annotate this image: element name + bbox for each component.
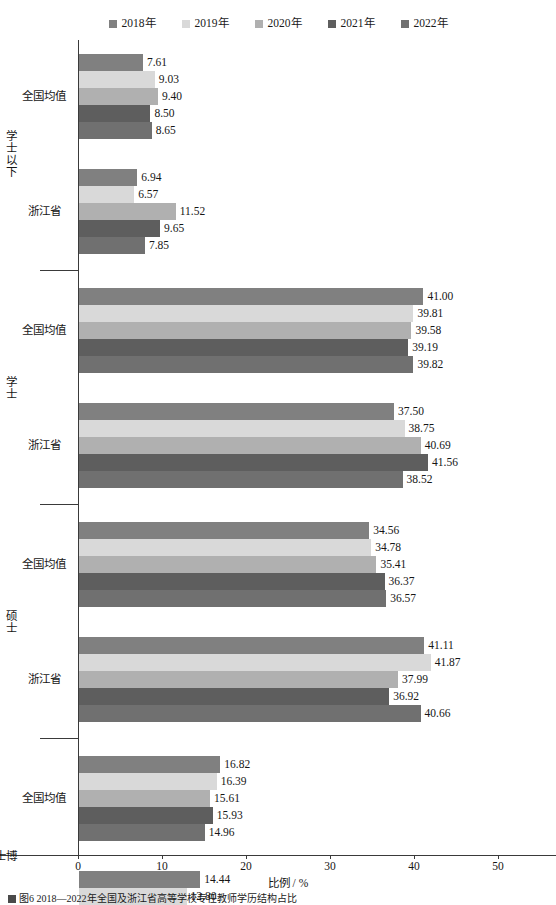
bar-fill <box>79 539 371 556</box>
bar: 16.82 <box>79 756 220 773</box>
bar-fill <box>79 522 369 539</box>
bar-value-label: 9.40 <box>162 91 182 103</box>
bar-value-label: 6.94 <box>141 172 161 184</box>
bar-value-label: 39.82 <box>417 359 443 371</box>
bar: 9.03 <box>79 71 155 88</box>
legend-label: 2022年 <box>414 18 448 30</box>
bar: 41.11 <box>79 637 424 654</box>
bar-value-label: 14.96 <box>209 827 235 839</box>
bar: 36.37 <box>79 573 385 590</box>
x-tick <box>78 855 79 859</box>
bar-fill <box>79 105 150 122</box>
bar: 34.78 <box>79 539 371 556</box>
subgroup-label: 全国均值 <box>14 325 74 337</box>
bar-value-label: 36.37 <box>389 576 415 588</box>
caption-marker-icon <box>8 895 16 903</box>
legend-label: 2019年 <box>195 18 229 30</box>
bar-value-label: 15.61 <box>214 793 240 805</box>
x-tick <box>330 855 331 859</box>
value-axis-line <box>0 855 556 856</box>
bar-fill <box>79 824 205 841</box>
bar-value-label: 11.52 <box>180 206 205 218</box>
plot-area: 7.619.039.408.508.65全国均值6.946.5711.529.6… <box>78 40 498 855</box>
bar-value-label: 34.56 <box>373 525 399 537</box>
bar: 9.65 <box>79 220 160 237</box>
bar-fill <box>79 556 376 573</box>
bar-fill <box>79 637 424 654</box>
bar-value-label: 8.50 <box>154 108 174 120</box>
x-tick <box>246 855 247 859</box>
bar: 34.56 <box>79 522 369 539</box>
bar-value-label: 16.82 <box>224 759 250 771</box>
bar: 6.94 <box>79 169 137 186</box>
bar: 41.00 <box>79 288 423 305</box>
bar: 40.66 <box>79 705 421 722</box>
bar-value-label: 39.19 <box>412 342 438 354</box>
bar: 41.87 <box>79 654 431 671</box>
figure-caption: 图6 2018—2022年全国及浙江省高等学校专任教师学历结构占比 <box>8 893 556 905</box>
bar-value-label: 7.85 <box>149 240 169 252</box>
group-separator <box>40 504 78 505</box>
bar: 35.41 <box>79 556 376 573</box>
bar-value-label: 15.93 <box>217 810 243 822</box>
bar-fill <box>79 71 155 88</box>
bar-fill <box>79 807 213 824</box>
subgroup-label: 浙江省 <box>14 674 74 686</box>
bar-fill <box>79 688 389 705</box>
bar: 36.57 <box>79 590 386 607</box>
bar: 9.40 <box>79 88 158 105</box>
bar: 14.96 <box>79 824 205 841</box>
x-axis-title: 比例 / % <box>78 878 498 890</box>
bar-value-label: 6.57 <box>138 189 158 201</box>
bar-value-label: 39.81 <box>417 308 443 320</box>
bar-fill <box>79 773 217 790</box>
group-label: 学士以下 <box>2 130 16 178</box>
subgroup-label: 全国均值 <box>14 91 74 103</box>
group-label: 博士 <box>2 850 16 862</box>
bar-fill <box>79 671 398 688</box>
bar: 39.81 <box>79 305 413 322</box>
x-tick-label: 30 <box>324 861 336 873</box>
bar-value-label: 38.52 <box>407 474 433 486</box>
bar-value-label: 8.65 <box>156 125 176 137</box>
group-label: 学士 <box>2 376 16 400</box>
bar: 6.57 <box>79 186 134 203</box>
figure-root: 2018年2019年2020年2021年2022年 7.619.039.408.… <box>0 0 556 905</box>
bar-fill <box>79 573 385 590</box>
subgroup-label: 浙江省 <box>14 206 74 218</box>
x-tick-label: 0 <box>75 861 81 873</box>
bar: 39.19 <box>79 339 408 356</box>
bar-fill <box>79 756 220 773</box>
bar-fill <box>79 169 137 186</box>
bar-fill <box>79 437 421 454</box>
bar-fill <box>79 186 134 203</box>
legend-square-icon <box>255 20 263 28</box>
x-tick <box>498 855 499 859</box>
bar-value-label: 9.65 <box>164 223 184 235</box>
bar: 41.56 <box>79 454 428 471</box>
bar-value-label: 36.57 <box>390 593 416 605</box>
bar-value-label: 7.61 <box>147 57 167 69</box>
bar-fill <box>79 54 143 71</box>
bar: 11.52 <box>79 203 176 220</box>
bar-fill <box>79 356 413 373</box>
legend-label: 2018年 <box>122 18 156 30</box>
bar-value-label: 37.50 <box>398 406 424 418</box>
subgroup-label: 全国均值 <box>14 559 74 571</box>
bar-fill <box>79 88 158 105</box>
bar-value-label: 36.92 <box>393 691 419 703</box>
group-label: 硕士 <box>2 610 16 634</box>
bar-value-label: 9.03 <box>159 74 179 86</box>
bar: 7.85 <box>79 237 145 254</box>
bar-value-label: 41.56 <box>432 457 458 469</box>
bar-fill <box>79 790 210 807</box>
bar-fill <box>79 403 394 420</box>
legend-square-icon <box>328 20 336 28</box>
bar-value-label: 40.66 <box>425 708 451 720</box>
bar-value-label: 40.69 <box>425 440 451 452</box>
bar-fill <box>79 339 408 356</box>
legend-item: 2021年 <box>328 18 375 30</box>
bar-value-label: 41.00 <box>427 291 453 303</box>
legend-label: 2020年 <box>268 18 302 30</box>
group-separator <box>40 270 78 271</box>
